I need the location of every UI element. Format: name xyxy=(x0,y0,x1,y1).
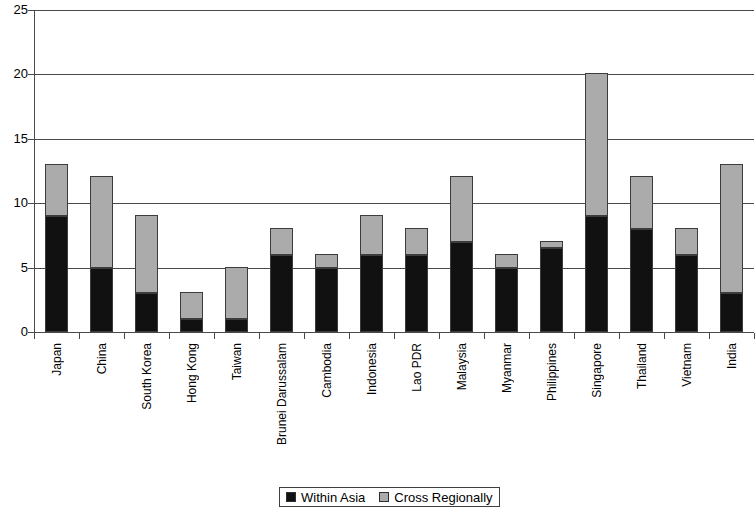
legend-item-cross-regionally: Cross Regionally xyxy=(379,491,492,504)
x-axis-tick-mark xyxy=(754,333,755,339)
x-axis-tick-mark xyxy=(34,333,35,339)
cross-regionally-swatch xyxy=(379,492,389,502)
bar-segment-cross-regionally xyxy=(90,176,113,267)
x-axis-category-label: Vietnam xyxy=(680,343,694,387)
x-axis-category-label: Hong Kong xyxy=(185,343,199,403)
bar-segment-cross-regionally xyxy=(450,176,473,241)
legend-item-within-asia: Within Asia xyxy=(286,491,365,504)
x-axis-category-label: Lao PDR xyxy=(410,343,424,392)
x-axis-tick-mark xyxy=(529,333,530,339)
x-axis-category-label: Thailand xyxy=(635,343,649,389)
bar-segment-cross-regionally xyxy=(630,176,653,229)
x-axis-category-label: Cambodia xyxy=(320,343,334,398)
x-axis-tick-mark xyxy=(664,333,665,339)
bar-segment-within-asia xyxy=(315,268,338,332)
bar-segment-within-asia xyxy=(585,216,608,332)
x-axis-category-label: Philippines xyxy=(545,343,559,401)
bar-segment-cross-regionally xyxy=(675,228,698,255)
bar-segment-within-asia xyxy=(270,255,293,332)
x-axis-category-label: Singapore xyxy=(590,343,604,398)
x-axis-category-label: South Korea xyxy=(140,343,154,410)
x-axis-category-label: Myanmar xyxy=(500,343,514,393)
x-axis-tick-mark xyxy=(484,333,485,339)
x-axis-tick-mark xyxy=(439,333,440,339)
bar-segment-cross-regionally xyxy=(45,164,68,217)
bar-segment-cross-regionally xyxy=(495,254,518,268)
bar-segment-cross-regionally xyxy=(180,292,203,319)
x-axis-category-label: Malaysia xyxy=(455,343,469,390)
x-axis-category-label: Indonesia xyxy=(365,343,379,395)
bar-segment-within-asia xyxy=(630,229,653,332)
bar-segment-cross-regionally xyxy=(540,241,563,248)
y-axis-tick-label: 5 xyxy=(2,261,28,274)
bar-segment-within-asia xyxy=(405,255,428,332)
bar-segment-within-asia xyxy=(675,255,698,332)
bar-segment-within-asia xyxy=(540,248,563,332)
bar-segment-within-asia xyxy=(360,255,383,332)
x-axis-tick-mark xyxy=(214,333,215,339)
x-axis-tick-mark xyxy=(304,333,305,339)
x-axis-tick-mark xyxy=(169,333,170,339)
stacked-bar-chart: 0510152025 JapanChinaSouth KoreaHong Kon… xyxy=(0,0,756,512)
x-axis-tick-mark xyxy=(574,333,575,339)
x-axis-tick-mark xyxy=(709,333,710,339)
x-axis-category-label: India xyxy=(725,343,739,369)
bar-segment-cross-regionally xyxy=(315,254,338,268)
bar-segment-within-asia xyxy=(135,293,158,332)
x-axis-category-label: China xyxy=(95,343,109,374)
legend-label-within-asia: Within Asia xyxy=(301,491,365,504)
within-asia-swatch xyxy=(286,492,296,502)
bar-segment-cross-regionally xyxy=(135,215,158,293)
bar-segment-within-asia xyxy=(720,293,743,332)
bar-segment-within-asia xyxy=(180,319,203,332)
x-axis-tick-mark xyxy=(349,333,350,339)
x-axis-category-label: Brunei Darussalam xyxy=(275,343,289,445)
bars-layer xyxy=(34,10,754,332)
y-axis-tick-label: 15 xyxy=(2,132,28,145)
bar-segment-within-asia xyxy=(90,268,113,332)
bar-segment-cross-regionally xyxy=(720,164,743,294)
y-axis-tick-labels: 0510152025 xyxy=(0,0,28,512)
x-axis-tick-mark xyxy=(619,333,620,339)
x-axis-tick-mark xyxy=(259,333,260,339)
x-axis-category-label: Taiwan xyxy=(230,343,244,380)
bar-segment-cross-regionally xyxy=(360,215,383,255)
y-axis-tick-label: 0 xyxy=(2,325,28,338)
bar-segment-within-asia xyxy=(225,319,248,332)
bar-segment-cross-regionally xyxy=(270,228,293,255)
bar-segment-cross-regionally xyxy=(585,73,608,216)
bar-segment-cross-regionally xyxy=(225,267,248,320)
legend-label-cross-regionally: Cross Regionally xyxy=(394,491,492,504)
bar-segment-within-asia xyxy=(495,268,518,332)
x-axis-tick-mark xyxy=(79,333,80,339)
x-axis-category-label: Japan xyxy=(50,343,64,376)
x-axis-tick-mark xyxy=(394,333,395,339)
bar-segment-within-asia xyxy=(45,216,68,332)
x-axis-tick-mark xyxy=(124,333,125,339)
y-axis-tick-label: 20 xyxy=(2,67,28,80)
bar-segment-cross-regionally xyxy=(405,228,428,255)
y-axis-tick-label: 25 xyxy=(2,3,28,16)
bar-segment-within-asia xyxy=(450,242,473,332)
y-axis-tick-label: 10 xyxy=(2,196,28,209)
chart-legend: Within Asia Cross Regionally xyxy=(279,487,500,507)
